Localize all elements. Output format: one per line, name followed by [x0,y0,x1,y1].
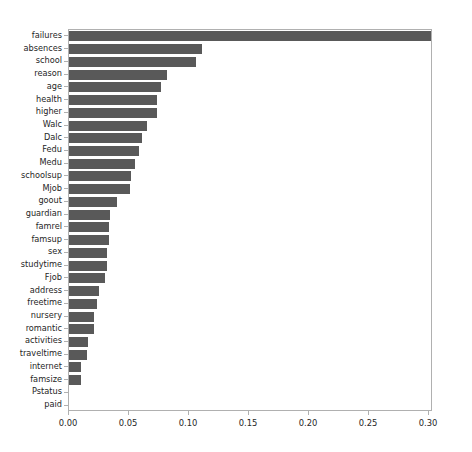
bar [69,273,105,283]
chart-figure: failuresabsencesschoolreasonagehealthhig… [0,0,472,452]
y-tick-label: famsize [0,375,62,384]
y-tick-mark [64,366,68,367]
y-tick-label: paid [0,400,62,409]
y-tick-label: guardian [0,209,62,218]
y-tick-label: schoolsup [0,171,62,180]
bars-container [69,30,431,410]
x-tick-mark [68,411,69,415]
y-tick-mark [64,35,68,36]
y-tick-mark [64,125,68,126]
y-tick-label: absences [0,44,62,53]
bar [69,375,81,385]
y-tick-mark [64,265,68,266]
y-tick-mark [64,214,68,215]
y-tick-label: age [0,82,62,91]
bar [69,222,109,232]
y-tick-mark [64,74,68,75]
bar [69,171,131,181]
y-tick-label: school [0,56,62,65]
y-tick-label: failures [0,31,62,40]
y-tick-label: freetime [0,298,62,307]
bar [69,324,94,334]
bar [69,82,161,92]
y-tick-mark [64,150,68,151]
bar [69,95,157,105]
bar [69,121,147,131]
y-tick-label: famrel [0,222,62,231]
y-tick-mark [64,137,68,138]
x-axis-tick-labels: 0.000.050.100.150.200.250.30 [0,411,472,441]
y-tick-label: romantic [0,324,62,333]
y-tick-mark [64,277,68,278]
x-tick-label: 0.20 [299,418,318,428]
y-tick-mark [64,252,68,253]
bar [69,184,130,194]
y-tick-mark [64,61,68,62]
bar [69,261,107,271]
y-tick-label: famsup [0,235,62,244]
x-tick-mark [248,411,249,415]
y-tick-label: Pstatus [0,387,62,396]
y-tick-label: sex [0,247,62,256]
y-tick-mark [64,201,68,202]
bar [69,337,88,347]
x-tick-label: 0.10 [179,418,198,428]
y-tick-mark [64,392,68,393]
y-tick-mark [64,99,68,100]
y-tick-label: Mjob [0,184,62,193]
y-tick-mark [64,226,68,227]
bar [69,44,202,54]
y-tick-mark [64,175,68,176]
plot-axes [68,29,432,411]
x-tick-mark [128,411,129,415]
y-tick-label: address [0,286,62,295]
y-tick-label: Fjob [0,273,62,282]
y-tick-label: studytime [0,260,62,269]
x-tick-label: 0.00 [59,418,78,428]
y-tick-label: Walc [0,120,62,129]
y-tick-label: Dalc [0,133,62,142]
x-tick-mark [188,411,189,415]
y-tick-label: reason [0,69,62,78]
x-tick-mark [368,411,369,415]
y-tick-label: activities [0,336,62,345]
bar [69,31,431,41]
bar [69,299,97,309]
y-tick-label: nursery [0,311,62,320]
x-tick-label: 0.15 [239,418,258,428]
bar [69,362,81,372]
y-tick-mark [64,48,68,49]
bar [69,108,157,118]
bar [69,248,107,258]
bar [69,197,117,207]
bar [69,286,99,296]
bar [69,312,94,322]
y-tick-mark [64,303,68,304]
y-tick-mark [64,405,68,406]
bar [69,133,142,143]
bar [69,70,167,80]
bar [69,146,139,156]
y-tick-mark [64,239,68,240]
bar [69,210,110,220]
bar [69,159,135,169]
y-axis-tick-labels: failuresabsencesschoolreasonagehealthhig… [0,29,62,411]
y-tick-mark [64,379,68,380]
y-tick-mark [64,290,68,291]
y-tick-mark [64,188,68,189]
y-tick-mark [64,112,68,113]
y-tick-mark [64,328,68,329]
bar [69,235,109,245]
y-tick-mark [64,316,68,317]
bar [69,350,87,360]
bar [69,57,196,67]
y-tick-label: Medu [0,158,62,167]
y-tick-mark [64,163,68,164]
y-tick-label: goout [0,196,62,205]
x-tick-mark [308,411,309,415]
y-tick-label: health [0,95,62,104]
y-tick-label: higher [0,107,62,116]
x-tick-mark [428,411,429,415]
x-tick-label: 0.25 [359,418,378,428]
x-tick-label: 0.05 [119,418,138,428]
